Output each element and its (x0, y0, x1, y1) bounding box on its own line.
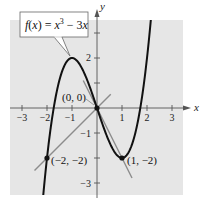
y-tick-label: −3 (80, 178, 91, 189)
x-tick-label: 1 (120, 112, 125, 123)
x-tick-label: −2 (40, 112, 51, 123)
y-tick-label: 2 (86, 52, 91, 63)
x-tick-label: −3 (17, 112, 28, 123)
function-graph: x y −3 −2 −1 1 2 3 2 −1 −3 (0, 0) (−2, −… (0, 0, 209, 203)
y-axis-label: y (99, 0, 105, 12)
function-label-text: f(x) = x3 − 3x (25, 17, 89, 32)
x-axis-label: x (193, 101, 199, 113)
point-origin (94, 105, 99, 110)
point-1-minus2 (119, 155, 124, 160)
point-label-minus2-minus2: (−2, −2) (51, 154, 88, 167)
x-axis-arrow-icon (183, 106, 191, 111)
point-label-origin: (0, 0) (62, 91, 86, 104)
point-label-1-minus2: (1, −2) (127, 154, 157, 167)
x-tick-label: 2 (145, 112, 150, 123)
x-tick-label: −1 (65, 112, 76, 123)
y-axis-arrow-icon (95, 9, 100, 17)
point-minus2-minus2 (44, 155, 49, 160)
y-tick-label: −1 (80, 128, 91, 139)
x-tick-label: 3 (170, 112, 175, 123)
